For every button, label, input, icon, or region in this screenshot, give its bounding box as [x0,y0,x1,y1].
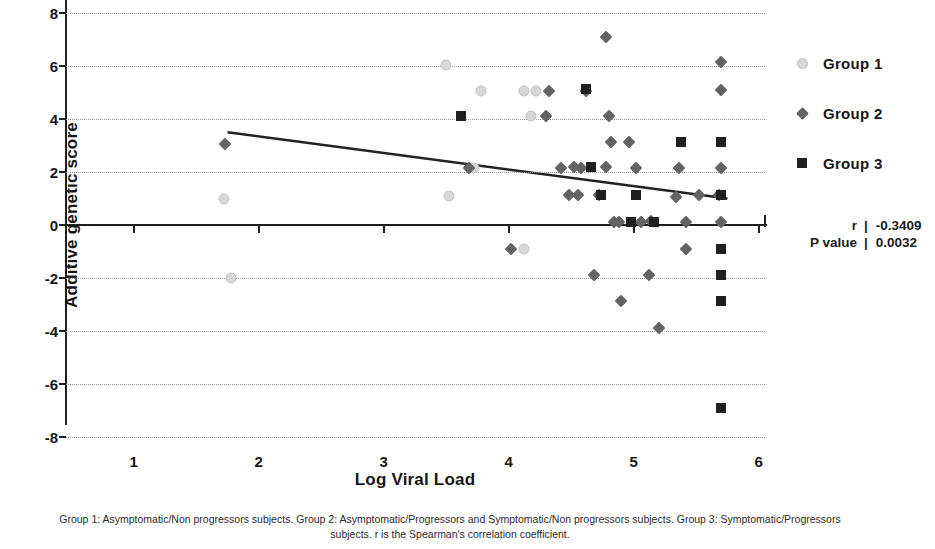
data-point [716,190,726,200]
x-tick-label: 5 [630,453,638,470]
data-point [518,243,529,254]
data-point [476,86,487,97]
data-point [626,217,636,227]
y-tick-label: -6 [45,376,58,393]
figure-caption: Group 1: Asymptomatic/Non progressors su… [55,512,845,542]
legend-item-group-3[interactable]: Group 3 [795,138,930,188]
y-tick-label: 6 [50,58,58,75]
gridline [65,66,765,67]
data-point [605,135,618,148]
data-point [581,84,591,94]
stat-row-r: r | -0.3409 [795,218,928,235]
legend: Group 1 Group 2 Group 3 [795,38,930,188]
stat-value-p-value: 0.0032 [876,235,928,250]
stat-label-p-value: P value [795,235,864,250]
gridline [65,172,765,173]
data-point [443,190,454,201]
data-point [716,244,726,254]
data-point [642,269,655,282]
gridline [65,119,765,120]
y-tick-label: 0 [50,217,58,234]
scatter-plot-area: 86420-2-4-6-8 123456 [65,13,765,437]
statistics-block: r | -0.3409 P value | 0.0032 [795,218,928,252]
data-point [649,217,659,227]
data-point [631,190,641,200]
x-tick-mark [133,225,135,233]
legend-label-group-3: Group 3 [823,155,883,172]
stat-separator-r: | [864,218,876,233]
stat-value-r: -0.3409 [876,218,928,233]
x-axis-label: Log Viral Load [65,470,765,490]
data-point [219,138,232,151]
legend-label-group-1: Group 1 [823,55,883,72]
x-tick-label: 1 [130,453,138,470]
y-tick-label: 2 [50,164,58,181]
data-point [526,111,537,122]
data-point [680,242,693,255]
x-tick-label: 4 [505,453,513,470]
y-axis-label: Additive genetic score [62,0,82,450]
legend-label-group-2: Group 2 [823,105,883,122]
data-point [505,242,518,255]
data-point [692,188,705,201]
data-point [602,110,615,123]
x-tick-label: 2 [255,453,263,470]
data-point [652,322,665,335]
data-point [715,216,728,229]
data-point [622,135,635,148]
y-tick-label: -8 [45,429,58,446]
data-point [670,191,683,204]
x-axis-zero-line [65,224,767,226]
gridline [65,13,765,14]
data-point [716,270,726,280]
y-tick-label: -2 [45,270,58,287]
y-tick-label: 4 [50,111,58,128]
gridline [65,437,765,438]
circle-icon [795,58,809,69]
y-tick-label: 8 [50,5,58,22]
data-point [226,273,237,284]
data-point [716,137,726,147]
x-tick-label: 3 [380,453,388,470]
stat-label-r: r [795,218,864,233]
data-point [596,190,606,200]
data-point [571,188,584,201]
data-point [441,59,452,70]
diamond-icon [795,109,809,118]
data-point [218,193,229,204]
x-axis-end-cap [764,215,766,227]
data-point [542,85,555,98]
caption-line-1: Group 1: Asymptomatic/Non progressors su… [59,513,629,525]
data-point [600,30,613,43]
data-point [676,137,686,147]
stat-row-p-value: P value | 0.0032 [795,235,928,252]
y-tick-label: -4 [45,323,58,340]
data-point [716,296,726,306]
stat-separator-p: | [864,235,876,250]
legend-item-group-2[interactable]: Group 2 [795,88,930,138]
data-point [586,162,596,172]
data-point [615,294,628,307]
data-point [456,111,466,121]
data-point [716,403,726,413]
figure-container: 86420-2-4-6-8 123456 Additive genetic sc… [0,0,935,549]
x-tick-label: 6 [755,453,763,470]
data-point [715,83,728,96]
x-tick-mark [383,225,385,233]
x-tick-mark [758,225,760,233]
x-tick-mark [258,225,260,233]
legend-item-group-1[interactable]: Group 1 [795,38,930,88]
square-icon [795,158,809,168]
data-point [531,86,542,97]
data-point [540,110,553,123]
data-point [680,216,693,229]
data-point [587,269,600,282]
data-point [518,86,529,97]
gridline [65,384,765,385]
x-tick-mark [508,225,510,233]
gridline [65,278,765,279]
